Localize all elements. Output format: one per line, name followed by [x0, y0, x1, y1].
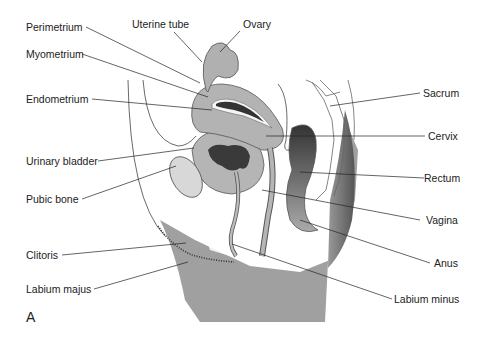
anatomy-diagram: Perimetrium Myometrium Endometrium Urina… [0, 0, 482, 344]
label-anus: Anus [434, 257, 458, 269]
label-urinary-bladder: Urinary bladder [26, 155, 98, 167]
label-labium-minus: Labium minus [394, 293, 459, 305]
label-sacrum: Sacrum [423, 87, 459, 99]
rectum-shape [286, 125, 318, 232]
label-pubic-bone: Pubic bone [26, 193, 79, 205]
label-vagina: Vagina [426, 214, 458, 226]
label-uterine-tube: Uterine tube [132, 18, 189, 30]
label-ovary: Ovary [243, 18, 271, 30]
label-cervix: Cervix [428, 130, 458, 142]
label-rectum: Rectum [424, 172, 460, 184]
label-clitoris: Clitoris [26, 249, 58, 261]
panel-letter: A [26, 309, 35, 325]
label-myometrium: Myometrium [26, 48, 84, 60]
label-endometrium: Endometrium [26, 93, 88, 105]
label-labium-majus: Labium majus [26, 283, 91, 295]
label-perimetrium: Perimetrium [26, 21, 83, 33]
